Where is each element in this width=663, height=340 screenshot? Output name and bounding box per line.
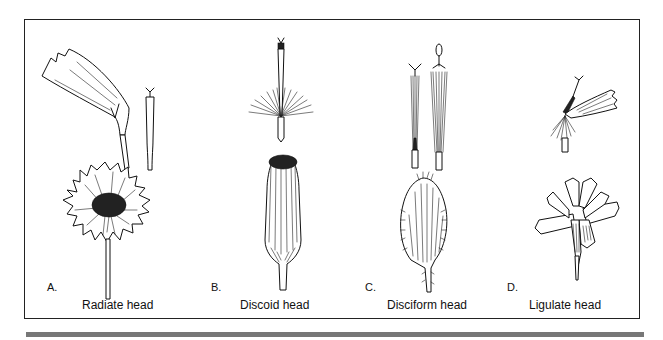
ligulate-floret-icon xyxy=(551,76,617,152)
panel-letter-b: B. xyxy=(211,281,221,293)
perfect-floret-icon xyxy=(431,44,447,170)
disciform-head-illustration xyxy=(343,20,493,320)
panel-disciform-head: C. Disciform head xyxy=(343,20,493,320)
radiate-capitulum-icon xyxy=(63,162,150,299)
disciform-capitulum-icon xyxy=(401,172,447,292)
panel-ligulate-head: D. Ligulate head xyxy=(493,20,639,320)
discoid-head-illustration xyxy=(185,20,335,320)
figure-frame: A. Radiate head B. Discoid head xyxy=(24,19,640,319)
radiate-head-illustration xyxy=(25,20,175,320)
panel-caption-c: Disciform head xyxy=(387,298,467,312)
ligulate-capitulum-icon xyxy=(535,178,619,280)
discoid-capitulum-icon xyxy=(265,155,301,290)
ligulate-head-illustration xyxy=(493,20,639,320)
panel-caption-d: Ligulate head xyxy=(529,298,601,312)
bottom-rule xyxy=(26,332,644,337)
panel-discoid-head: B. Discoid head xyxy=(185,20,335,320)
panel-caption-a: Radiate head xyxy=(82,298,153,312)
panel-caption-b: Discoid head xyxy=(240,298,309,312)
pistillate-floret-icon xyxy=(409,64,421,168)
panel-letter-d: D. xyxy=(507,281,518,293)
ray-floret-icon xyxy=(42,49,129,170)
disc-floret-with-pappus-icon xyxy=(249,38,313,142)
panel-radiate-head: A. Radiate head xyxy=(25,20,175,320)
panel-letter-a: A. xyxy=(47,281,57,293)
panel-letter-c: C. xyxy=(365,281,376,293)
disc-floret-icon xyxy=(146,88,154,170)
